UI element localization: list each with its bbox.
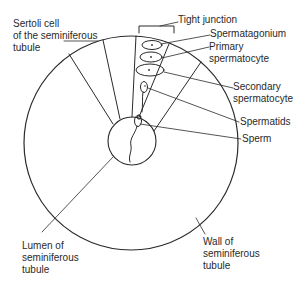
label-lumen: Lumen of seminiferous tubule <box>22 240 79 276</box>
label-line: Secondary <box>233 81 293 93</box>
label-line: Spermatids <box>240 116 291 128</box>
lumen-circle <box>108 117 156 165</box>
label-line: tubule <box>22 264 79 276</box>
secondary-spermatocyte-cell <box>136 64 164 76</box>
label-line: Wall of <box>203 236 260 248</box>
label-tight-junction: Tight junction <box>178 14 237 26</box>
label-primary-spermatocyte: Primary spermatocyte <box>209 41 269 65</box>
label-line: tubule <box>203 260 260 272</box>
label-line: Lumen of <box>22 240 79 252</box>
label-line: seminiferous <box>203 248 260 260</box>
label-line: tubule <box>13 42 98 54</box>
label-line: seminiferous <box>22 252 79 264</box>
label-line: spermatocyte <box>233 93 293 105</box>
label-wall: Wall of seminiferous tubule <box>203 236 260 272</box>
label-line: Sperm <box>242 133 271 145</box>
label-spermatids: Spermatids <box>240 116 291 128</box>
label-line: of the seminiferous <box>13 30 98 42</box>
label-line: Tight junction <box>178 14 237 26</box>
label-sertoli-cell: Sertoli cell of the seminiferous tubule <box>13 18 98 54</box>
label-sperm: Sperm <box>242 133 271 145</box>
label-line: Spermatagonium <box>210 28 286 40</box>
label-line: Primary <box>209 41 269 53</box>
tight-junction-bracket <box>139 26 174 33</box>
label-spermatagonium: Spermatagonium <box>210 28 286 40</box>
label-line: spermatocyte <box>209 53 269 65</box>
label-line: Sertoli cell <box>13 18 98 30</box>
label-secondary-spermatocyte: Secondary spermatocyte <box>233 81 293 105</box>
spermatid-cell <box>141 82 148 93</box>
